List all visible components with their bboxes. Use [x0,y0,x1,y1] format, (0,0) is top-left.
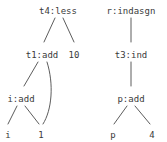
node-literal-10: 10 [69,50,80,61]
node-literal-1: 1 [38,130,43,141]
edge-padd-four [135,106,150,124]
edge-t1add-one-curved [43,62,51,124]
edge-t4less-ten [63,18,74,42]
node-t3-ind: t3:ind [115,50,148,61]
edge-padd-p [114,106,127,124]
edge-iadd-one [25,106,39,124]
node-t1-add: t1:add [26,50,59,61]
edge-iadd-i [8,106,17,124]
node-p-add: p:add [117,94,144,105]
node-r-indasgn: r:indasgn [107,6,156,17]
node-var-i: i [5,130,10,141]
node-var-p: p [110,130,115,141]
edge-t1add-iadd [24,62,38,86]
expression-tree-figure: t4:less t1:add 10 i:add i 1 r:indasgn t3… [0,0,167,142]
node-literal-4: 4 [149,130,154,141]
edge-t4less-t1add [44,18,55,42]
tree-edges [0,0,167,142]
node-i-add: i:add [7,94,34,105]
node-t4-less: t4:less [39,6,77,17]
